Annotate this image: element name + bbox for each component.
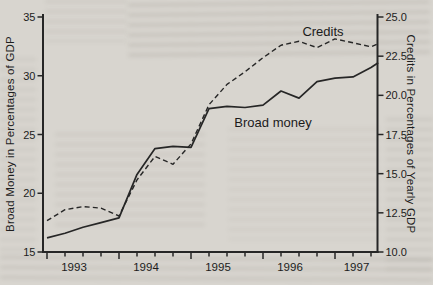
x-axis-year-label: 1997	[344, 261, 370, 273]
credits-line	[47, 39, 378, 221]
x-axis-year-label: 1996	[277, 261, 303, 273]
left-axis-tick-label: 35	[23, 11, 35, 23]
right-axis-tick-label: 12.5	[386, 207, 407, 219]
credits-series-label: Credits	[302, 24, 343, 39]
left-axis-tick-label: 30	[23, 70, 35, 82]
broad-money-series-label: Broad money	[234, 115, 311, 130]
x-axis-year-label: 1993	[61, 261, 87, 273]
right-axis-tick-label: 22.5	[386, 50, 407, 62]
right-axis-tick-label: 10.0	[386, 246, 407, 258]
broad-money-line	[47, 63, 378, 238]
right-axis-tick-label: 20.0	[386, 89, 407, 101]
right-axis-tick-label: 25.0	[386, 11, 407, 23]
left-axis-tick-label: 15	[23, 246, 35, 258]
right-axis-title: Credits in Percentages of Yearly GDP	[405, 35, 417, 234]
left-axis-tick-label: 20	[23, 187, 35, 199]
left-axis-title: Broad Money in Percentages of GDP	[4, 36, 16, 232]
right-axis-tick-label: 15.0	[386, 168, 407, 180]
x-axis-year-label: 1995	[205, 261, 231, 273]
x-axis-year-label: 1994	[133, 261, 159, 273]
left-axis-tick-label: 25	[23, 129, 35, 141]
right-axis-tick-label: 17.5	[386, 129, 407, 141]
